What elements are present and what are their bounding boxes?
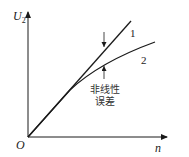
origin-label: O bbox=[16, 139, 25, 151]
annotation-line-1: 非线性 bbox=[85, 84, 125, 96]
nonlinear-error-label: 非线性 误差 bbox=[85, 84, 125, 108]
curve-1-label: 1 bbox=[130, 28, 136, 39]
curve-2-label: 2 bbox=[141, 55, 147, 66]
x-axis-label: n bbox=[155, 142, 161, 154]
y-axis-label: U2 bbox=[13, 10, 26, 25]
annotation-line-2: 误差 bbox=[85, 96, 125, 108]
diagram-canvas bbox=[0, 0, 189, 157]
